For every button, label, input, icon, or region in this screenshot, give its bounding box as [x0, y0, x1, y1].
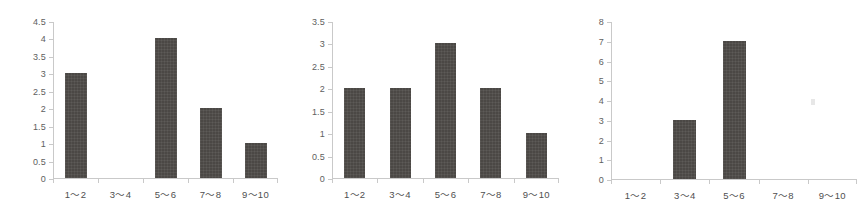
bar [435, 43, 456, 178]
x-tick-mark [53, 179, 54, 183]
bar [200, 108, 222, 178]
x-tick-mark [611, 180, 612, 184]
x-tick-label: 1～2 [625, 191, 646, 201]
x-tick-label: 9～10 [523, 190, 550, 200]
y-tick-label: 7 [599, 37, 604, 46]
x-tick-mark [377, 179, 378, 183]
x-tick-label: 7～8 [200, 190, 221, 200]
y-tick-label: 0.5 [33, 157, 46, 166]
x-tick-label: 7～8 [772, 191, 793, 201]
plot-area-2: 00.511.522.533.5 1～23～45～67～89～10 [332, 22, 559, 179]
bar-chart-panel-2: 00.511.522.533.5 1～23～45～67～89～10 [285, 0, 569, 213]
bar [65, 73, 87, 178]
x-tick-mark [188, 179, 189, 183]
y-tick-label: 2.5 [33, 87, 46, 96]
bars-layer [53, 22, 278, 179]
x-tick-mark [759, 180, 760, 184]
x-tick-mark [660, 180, 661, 184]
y-tick-label: 3 [599, 116, 604, 125]
y-tick-label: 4 [599, 97, 604, 106]
y-tick-label: 5 [599, 77, 604, 86]
x-tick-label: 3～4 [389, 190, 410, 200]
y-tick-label: 2.5 [312, 62, 325, 71]
y-tick-label: 2 [320, 85, 325, 94]
x-tick-label: 3～4 [110, 190, 131, 200]
y-tick-label: 8 [599, 18, 604, 27]
plot-area-1: 00.511.522.533.544.5 1～23～45～67～89～10 [53, 22, 278, 179]
x-tick-mark [558, 179, 559, 183]
x-tick-mark [468, 179, 469, 183]
y-tick-label: 3.5 [312, 18, 325, 27]
y-tick-label: 3 [41, 70, 46, 79]
bars-layer [332, 22, 559, 179]
y-tick-label: 6 [599, 57, 604, 66]
y-tick-label: 1.5 [312, 107, 325, 116]
x-tick-mark [709, 180, 710, 184]
y-tick-label: 1.5 [33, 122, 46, 131]
bar [390, 88, 411, 178]
y-tick-label: 4 [41, 35, 46, 44]
bar [245, 143, 267, 178]
y-tick-label: 4.5 [33, 18, 46, 27]
y-tick-label: 3 [320, 40, 325, 49]
x-tick-label: 1～2 [65, 190, 86, 200]
scan-speck-artifact [811, 99, 815, 105]
x-tick-label: 7～8 [480, 190, 501, 200]
x-tick-mark [514, 179, 515, 183]
x-tick-label: 9～10 [242, 190, 269, 200]
y-tick-label: 1 [599, 156, 604, 165]
plot-area-3: 012345678 1～23～45～67～89～10 [611, 22, 857, 180]
y-tick-label: 2 [599, 136, 604, 145]
x-tick-label: 1～2 [344, 190, 365, 200]
bar [526, 133, 547, 178]
bar [155, 38, 177, 178]
bar [673, 120, 696, 179]
y-tick-label: 1 [320, 130, 325, 139]
x-tick-mark [808, 180, 809, 184]
x-tick-mark [332, 179, 333, 183]
x-tick-mark [98, 179, 99, 183]
bars-layer [611, 22, 857, 180]
bar-chart-panel-3: 012345678 1～23～45～67～89～10 [569, 0, 854, 213]
x-tick-mark [233, 179, 234, 183]
bar [480, 88, 501, 178]
x-tick-mark [143, 179, 144, 183]
bar [344, 88, 365, 178]
y-tick-label: 0 [599, 176, 604, 185]
bar-chart-panel-1: 00.511.522.533.544.5 1～23～45～67～89～10 [0, 0, 285, 213]
x-tick-label: 5～6 [723, 191, 744, 201]
x-tick-label: 5～6 [155, 190, 176, 200]
x-tick-mark [277, 179, 278, 183]
y-tick-label: 0.5 [312, 152, 325, 161]
y-tick-label: 0 [320, 175, 325, 184]
y-tick-label: 2 [41, 105, 46, 114]
x-tick-label: 9～10 [819, 191, 846, 201]
x-tick-label: 3～4 [674, 191, 695, 201]
y-tick-label: 3.5 [33, 52, 46, 61]
x-tick-mark [423, 179, 424, 183]
y-tick-label: 0 [41, 175, 46, 184]
bar [723, 41, 746, 179]
y-tick-label: 1 [41, 140, 46, 149]
x-tick-label: 5～6 [435, 190, 456, 200]
